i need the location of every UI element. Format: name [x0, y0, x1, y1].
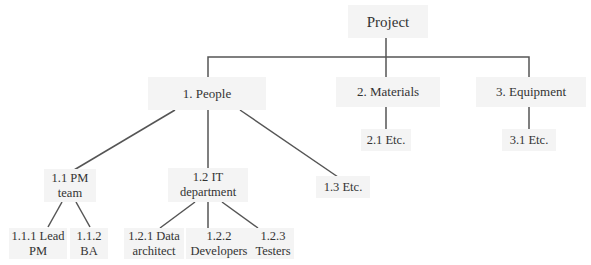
node-data-architect: 1.2.1 Data architect — [124, 228, 184, 259]
node-pm-team: 1.1 PM team — [44, 169, 96, 202]
node-equipment-etc: 3.1 Etc. — [502, 129, 556, 151]
node-people-etc: 1.3 Etc. — [316, 176, 370, 198]
connector-ba — [76, 202, 90, 227]
node-lead-pm: 1.1.1 Lead PM — [9, 228, 67, 259]
node-it-department: 1.2 IT department — [168, 168, 248, 202]
node-people: 1. People — [148, 77, 266, 110]
connector-pm-team — [74, 110, 175, 170]
connector-testers — [222, 202, 258, 228]
node-materials: 2. Materials — [336, 77, 440, 107]
node-project: Project — [348, 5, 428, 38]
node-developers: 1.2.2 Developers — [186, 228, 252, 259]
connector-lead-pm — [48, 202, 62, 227]
connector-etc-1-3 — [240, 110, 338, 177]
node-equipment: 3. Equipment — [476, 77, 586, 107]
connector-data-architect — [160, 202, 195, 228]
connector-level1-bus — [208, 57, 529, 77]
node-materials-etc: 2.1 Etc. — [361, 129, 411, 151]
wbs-diagram: Project 1. People 2. Materials 3. Equipm… — [0, 0, 591, 265]
node-ba: 1.1.2 BA — [70, 228, 108, 259]
node-testers: 1.2.3 Testers — [252, 228, 294, 259]
